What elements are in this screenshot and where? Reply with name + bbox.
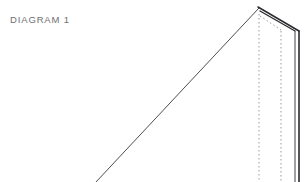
diagram-canvas: DIAGRAM 1 [0, 0, 304, 182]
long-diagonal-ridge [96, 8, 259, 182]
diagram-title-label: DIAGRAM 1 [10, 14, 70, 26]
diagram-figure [0, 0, 304, 182]
